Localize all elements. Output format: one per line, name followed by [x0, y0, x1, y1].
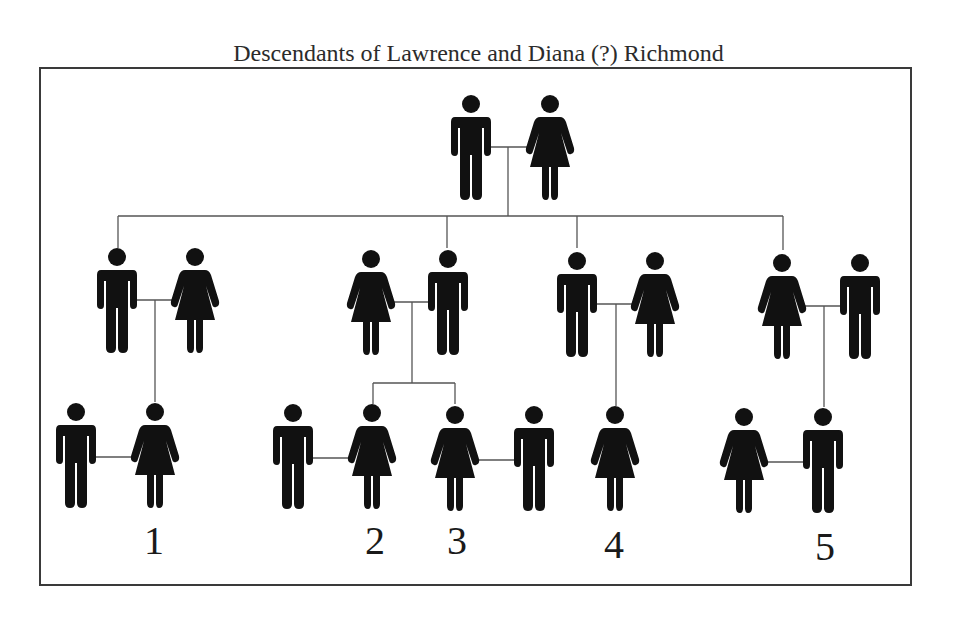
woman-icon: [347, 250, 395, 355]
man-icon: [557, 252, 597, 357]
descendant-label-2: 2: [355, 521, 395, 561]
woman-icon: [526, 95, 574, 200]
man-icon: [803, 408, 843, 513]
woman-icon: [348, 404, 396, 509]
woman-icon: [720, 408, 768, 513]
man-icon: [451, 95, 491, 200]
man-icon: [514, 406, 554, 511]
woman-icon: [171, 248, 219, 353]
woman-icon: [131, 403, 179, 508]
descendant-label-5: 5: [805, 527, 845, 567]
descendant-label-4: 4: [594, 525, 634, 565]
man-icon: [840, 254, 880, 359]
man-icon: [97, 248, 137, 353]
woman-icon: [758, 254, 806, 359]
woman-icon: [631, 252, 679, 357]
man-icon: [428, 250, 468, 355]
woman-icon: [431, 406, 479, 511]
man-icon: [56, 403, 96, 508]
woman-icon: [591, 406, 639, 511]
descendant-label-3: 3: [437, 521, 477, 561]
man-icon: [273, 404, 313, 509]
descendant-label-1: 1: [134, 521, 174, 561]
